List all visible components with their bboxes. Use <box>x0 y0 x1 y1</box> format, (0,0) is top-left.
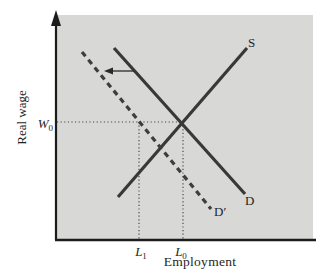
l0-subscript: 0 <box>182 251 187 261</box>
employment-l0-tick-label: L0 <box>168 243 194 261</box>
w0-subscript: 0 <box>49 123 54 133</box>
employment-l1-tick-label: L1 <box>128 243 154 261</box>
l1-subscript: 1 <box>142 251 147 261</box>
demand-curve-label: D <box>245 194 254 207</box>
shifted-demand-curve-label: D′ <box>214 205 226 218</box>
labor-market-diagram: Real wage Employment W0 L1 L0 S D D′ <box>0 0 330 275</box>
wage-w0-tick-label: W0 <box>20 115 53 133</box>
supply-curve-label: S <box>248 36 255 49</box>
w0-base: W <box>38 116 49 131</box>
plot-canvas <box>0 0 330 275</box>
